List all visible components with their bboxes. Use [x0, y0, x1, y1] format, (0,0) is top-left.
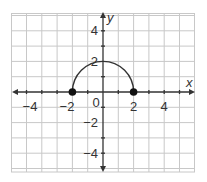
y-axis-label: y [106, 10, 115, 25]
y-tick-label-2: 2 [91, 54, 98, 69]
origin-label: 0 [92, 95, 99, 110]
x-tick-label-neg4: −4 [23, 99, 38, 114]
endpoint-right [130, 88, 138, 96]
y-tick-label-neg4: −4 [83, 146, 98, 161]
x-axis-label: x [185, 75, 193, 90]
y-tick-label-neg2: −2 [83, 115, 98, 130]
x-tick-label-4: 4 [161, 99, 168, 114]
x-tick-label-2: 2 [130, 99, 137, 114]
coordinate-plane: y x −4 −2 0 2 4 4 2 −2 −4 [0, 0, 207, 182]
endpoint-left [69, 88, 77, 96]
x-axis-left-arrow-icon [12, 89, 18, 95]
x-tick-label-neg2: −2 [60, 99, 75, 114]
y-tick-label-4: 4 [91, 23, 98, 38]
